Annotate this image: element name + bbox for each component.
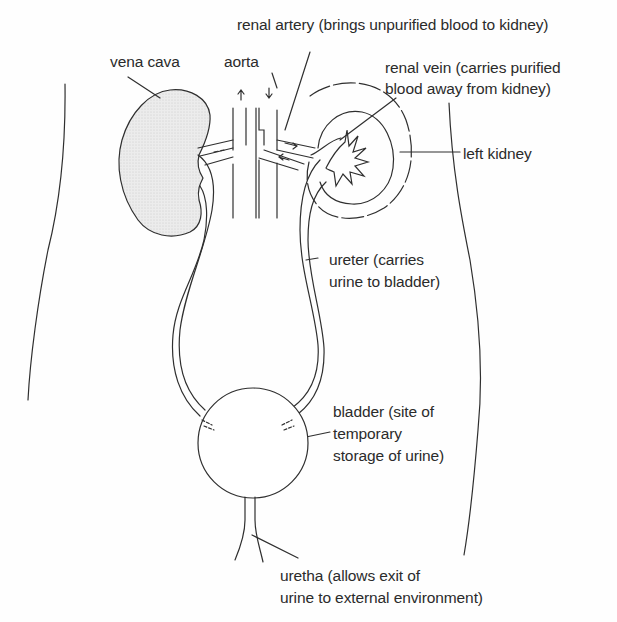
renal-artery-pointer — [285, 52, 310, 130]
vena-cava-label: vena cava — [110, 51, 180, 72]
ureter-label-line1: ureter (carries — [329, 249, 424, 270]
renal-artery — [277, 140, 315, 158]
bladder-label-line2: temporary — [333, 423, 402, 444]
renal-artery-label: renal artery (brings unpurified blood to… — [237, 14, 548, 35]
body-outline-left — [28, 84, 65, 400]
uretha — [235, 497, 263, 562]
renal-vein — [259, 150, 304, 170]
body-outline-right — [449, 103, 480, 555]
bladder-label-line3: storage of urine) — [333, 445, 444, 466]
uretha-label-line2: urine to external environment) — [280, 587, 483, 608]
renal-vein-label-line1: renal vein (carries purified — [385, 57, 561, 78]
urinary-system-diagram: renal artery (brings unpurified blood to… — [0, 0, 617, 622]
bladder — [198, 388, 308, 498]
bladder-pointer — [306, 432, 330, 437]
renal-vein-label-line2: blood away from kidney) — [385, 78, 551, 99]
uretha-label-line1: uretha (allows exit of — [280, 565, 420, 586]
aorta-label: aorta — [224, 51, 259, 72]
aorta-pointer — [272, 73, 277, 88]
left-kidney-label: left kidney — [463, 143, 532, 164]
vena-cava-pointer — [128, 77, 160, 98]
ureter-label-line2: urine to bladder) — [329, 271, 440, 292]
ureter-pointer — [306, 258, 318, 260]
bladder-label-line1: bladder (site of — [333, 401, 434, 422]
right-kidney — [119, 90, 210, 236]
